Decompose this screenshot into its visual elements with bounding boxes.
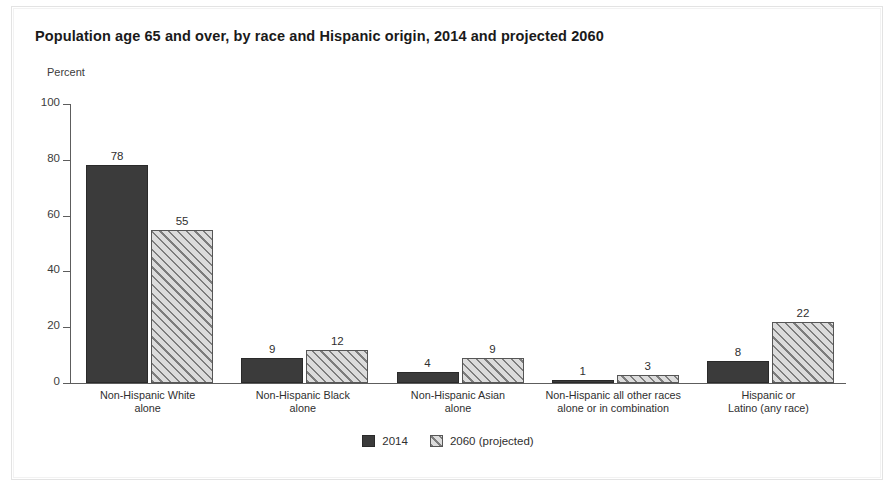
legend-swatch-icon <box>362 435 375 447</box>
x-axis-category-label: Non-Hispanic White alone <box>58 389 237 415</box>
x-axis-category-label: Hispanic or Latino (any race) <box>679 389 858 415</box>
legend-label: 2060 (projected) <box>450 435 534 447</box>
y-axis-line <box>70 104 71 383</box>
y-axis-tick-mark <box>63 383 71 384</box>
plot-area: 020406080100 78559124913822 Non-Hispanic… <box>70 104 846 383</box>
bar: 12 <box>306 350 368 383</box>
chart-figure: Population age 65 and over, by race and … <box>0 0 896 487</box>
legend-item[interactable]: 2060 (projected) <box>430 435 534 447</box>
bar: 4 <box>397 372 459 383</box>
y-axis-tick-mark <box>63 271 71 272</box>
chart-legend: 20142060 (projected) <box>0 435 896 447</box>
bar: 8 <box>707 361 769 383</box>
legend-swatch-icon <box>430 435 443 447</box>
bar-value-label: 3 <box>644 360 650 372</box>
chart-title: Population age 65 and over, by race and … <box>35 28 604 44</box>
bar: 22 <box>772 322 834 383</box>
bar-value-label: 4 <box>424 357 430 369</box>
y-axis-tick-label: 0 <box>54 375 60 387</box>
x-axis-category-label: Non-Hispanic all other races alone or in… <box>524 389 703 415</box>
bar-value-label: 22 <box>796 307 809 319</box>
bar: 1 <box>552 380 614 383</box>
legend-item[interactable]: 2014 <box>362 435 408 447</box>
bar-value-label: 1 <box>579 365 585 377</box>
y-axis-tick-label: 40 <box>47 263 60 275</box>
bar-value-label: 9 <box>269 343 275 355</box>
x-axis-category-label: Non-Hispanic Asian alone <box>368 389 547 415</box>
bar-value-label: 78 <box>111 150 124 162</box>
bar: 78 <box>86 165 148 383</box>
y-axis-tick-mark <box>63 327 71 328</box>
legend-label: 2014 <box>382 435 408 447</box>
y-axis-tick-label: 60 <box>47 208 60 220</box>
y-axis-tick-label: 20 <box>47 319 60 331</box>
y-axis-tick-mark <box>63 216 71 217</box>
y-axis-tick-label: 80 <box>47 152 60 164</box>
bar: 9 <box>241 358 303 383</box>
bar-value-label: 8 <box>735 346 741 358</box>
y-axis-tick-mark <box>63 160 71 161</box>
y-axis-tick-mark <box>63 104 71 105</box>
bar: 3 <box>617 375 679 383</box>
x-axis-category-label: Non-Hispanic Black alone <box>213 389 392 415</box>
bar-value-label: 12 <box>331 335 344 347</box>
bar: 9 <box>462 358 524 383</box>
bar-value-label: 55 <box>176 215 189 227</box>
bar: 55 <box>151 230 213 383</box>
y-axis-tick-label: 100 <box>41 96 60 108</box>
x-axis-line <box>70 383 846 384</box>
bar-value-label: 9 <box>489 343 495 355</box>
y-axis-title: Percent <box>47 66 85 78</box>
